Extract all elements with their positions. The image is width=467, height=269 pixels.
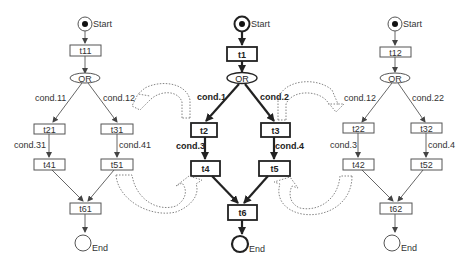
svg-text:t21: t21 xyxy=(43,125,56,135)
condition-label: cond.22 xyxy=(412,93,444,103)
transition-t51[interactable]: t51 xyxy=(101,159,133,170)
svg-text:t3: t3 xyxy=(271,126,279,136)
svg-text:t2: t2 xyxy=(200,126,208,136)
svg-text:t61: t61 xyxy=(79,204,92,214)
token-icon xyxy=(392,21,398,27)
svg-text:t41: t41 xyxy=(43,160,56,170)
start-place[interactable] xyxy=(235,17,250,32)
transition-t41[interactable]: t41 xyxy=(34,159,65,170)
transition-t4[interactable]: t4 xyxy=(191,161,220,176)
transition-t31[interactable]: t31 xyxy=(101,124,133,135)
end-place[interactable] xyxy=(384,235,400,251)
token-icon xyxy=(239,21,245,27)
end-label: End xyxy=(249,244,265,254)
svg-text:t11: t11 xyxy=(80,46,92,56)
end-label: End xyxy=(401,243,417,253)
right-net: Start t12 OR cond.12 cond.22 t22 t32 con… xyxy=(330,17,455,253)
end-label: End xyxy=(92,243,108,253)
transition-t21[interactable]: t21 xyxy=(34,124,65,135)
end-place[interactable] xyxy=(232,236,248,252)
transition-t3[interactable]: t3 xyxy=(261,123,290,137)
mapping-arrow-lower-left xyxy=(116,175,202,213)
svg-text:t62: t62 xyxy=(390,204,403,214)
transition-t12[interactable]: t12 xyxy=(380,47,411,58)
transition-t2[interactable]: t2 xyxy=(191,123,217,137)
condition-label: cond.31 xyxy=(14,140,46,150)
svg-text:OR: OR xyxy=(235,74,249,84)
svg-text:t1: t1 xyxy=(238,50,246,60)
transition-t6[interactable]: t6 xyxy=(228,205,257,220)
end-place[interactable] xyxy=(75,235,91,251)
condition-label: cond.1 xyxy=(197,92,226,102)
or-split[interactable]: OR xyxy=(380,73,410,84)
svg-text:t5: t5 xyxy=(270,164,278,174)
condition-label: cond.11 xyxy=(35,93,66,103)
condition-label: cond.4 xyxy=(428,140,455,150)
svg-text:OR: OR xyxy=(388,74,402,84)
mapping-arrow-upper-left xyxy=(132,84,190,118)
transition-t11[interactable]: t11 xyxy=(70,45,101,56)
transition-t42[interactable]: t42 xyxy=(343,159,374,170)
svg-text:t51: t51 xyxy=(111,160,124,170)
left-net: Start t11 OR cond.11 cond.12 t21 t31 con… xyxy=(14,17,151,253)
start-label: Start xyxy=(93,19,113,29)
svg-text:t42: t42 xyxy=(352,160,365,170)
condition-label: cond.2 xyxy=(260,92,289,102)
transition-t62[interactable]: t62 xyxy=(380,203,412,214)
transition-t5[interactable]: t5 xyxy=(259,161,290,176)
svg-text:t32: t32 xyxy=(420,124,433,134)
start-place[interactable] xyxy=(78,17,92,31)
or-split[interactable]: OR xyxy=(227,73,257,85)
or-split[interactable]: OR xyxy=(70,73,100,84)
transition-t1[interactable]: t1 xyxy=(227,47,257,61)
token-icon xyxy=(82,21,88,27)
transition-t52[interactable]: t52 xyxy=(411,159,442,170)
svg-text:OR: OR xyxy=(78,74,92,84)
transition-t22[interactable]: t22 xyxy=(343,123,374,134)
petri-net-diagram: Start t11 OR cond.11 cond.12 t21 t31 con… xyxy=(0,0,467,269)
start-place[interactable] xyxy=(388,17,402,31)
svg-text:t22: t22 xyxy=(352,124,365,134)
condition-label: cond.3 xyxy=(176,141,205,151)
svg-text:t31: t31 xyxy=(111,125,124,135)
condition-label: cond.12 xyxy=(344,93,376,103)
condition-label: cond.3 xyxy=(330,140,357,150)
center-net: Start t1 OR cond.1 cond.2 t2 t3 cond.3 c… xyxy=(176,17,304,255)
condition-label: cond.41 xyxy=(119,140,151,150)
svg-text:t52: t52 xyxy=(420,160,433,170)
mapping-arrow-lower-right xyxy=(274,176,352,215)
transition-t32[interactable]: t32 xyxy=(411,123,442,134)
svg-text:t6: t6 xyxy=(238,208,246,218)
start-label: Start xyxy=(251,19,271,29)
condition-label: cond.12 xyxy=(103,93,135,103)
svg-text:t12: t12 xyxy=(389,48,402,58)
transition-t61[interactable]: t61 xyxy=(70,203,101,214)
condition-label: cond.4 xyxy=(275,141,304,151)
start-label: Start xyxy=(403,19,423,29)
svg-text:t4: t4 xyxy=(201,164,209,174)
